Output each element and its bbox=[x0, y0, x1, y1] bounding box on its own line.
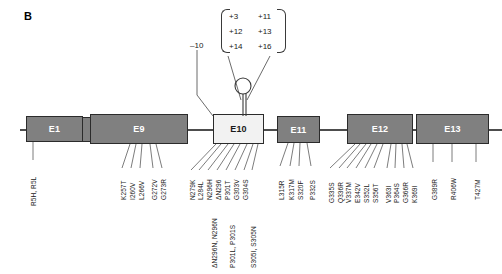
mutation-label-p301t: P301T bbox=[224, 180, 231, 200]
mutation-label-g366r: G366R bbox=[402, 182, 409, 203]
mutation-label-delta-n296: ΔN296 bbox=[215, 180, 222, 200]
mutation-label-e1-r5h-r5l: R5H, R5L bbox=[30, 177, 37, 206]
mutation-label-l266v: L266V bbox=[138, 181, 145, 200]
mutation-label-k369i: K369I bbox=[411, 186, 418, 204]
mutation-label-n279k: N279K bbox=[189, 180, 196, 200]
mutation-label-k317m: K317M bbox=[288, 179, 295, 200]
mutation-label-s356t: S356T bbox=[372, 183, 379, 203]
mutation-label-delta-n296n-n296n: ΔN296N, N296N bbox=[211, 218, 218, 268]
mutation-label-g273r: G273R bbox=[160, 179, 167, 200]
mutation-label-t427m: T427M bbox=[474, 179, 481, 200]
mutation-label-s305i-s305n: S305I, S305N bbox=[250, 226, 257, 268]
mutation-label-q336r: Q336R bbox=[337, 182, 344, 203]
mutation-label-s320f: S320F bbox=[297, 180, 304, 200]
mutation-label-k257t: K257T bbox=[120, 180, 127, 200]
mutation-label-g389r: G389R bbox=[431, 179, 438, 200]
mutation-label-g335s: G335S bbox=[328, 182, 335, 203]
mutation-label-l315r: L315R bbox=[278, 180, 285, 200]
mutation-label-g304s: G304S bbox=[242, 179, 249, 200]
mutation-label-l284l: L284L bbox=[197, 181, 204, 200]
mutation-label-p332s: P332S bbox=[309, 180, 316, 200]
mutation-label-p301l-p301s: P301L, P301S bbox=[229, 225, 236, 268]
mutation-label-n296h: N296H bbox=[206, 179, 213, 200]
mutation-label-v337m: V337M bbox=[345, 182, 352, 203]
mutation-label-g303v: G303V bbox=[233, 179, 240, 200]
mutation-label-i260v: I260V bbox=[129, 183, 136, 201]
mutation-label-p364s: P364S bbox=[393, 183, 400, 203]
mutation-label-v363i: V363I bbox=[385, 186, 392, 204]
mutation-label-e342v: E342V bbox=[354, 183, 361, 203]
mutation-label-s352l: S352L bbox=[363, 184, 370, 203]
mutation-label-g272v: G272V bbox=[151, 179, 158, 200]
mutation-label-r406w: R406W bbox=[450, 178, 457, 200]
